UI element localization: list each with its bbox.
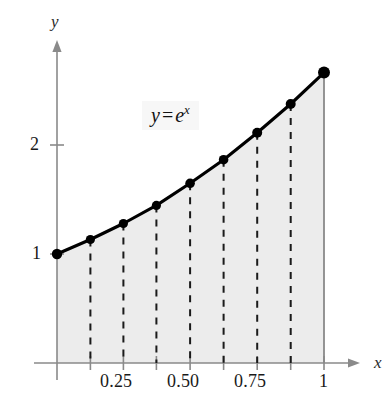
data-point-marker bbox=[185, 179, 195, 189]
x-tick-label-0.50: 0.50 bbox=[167, 371, 199, 392]
data-point-marker bbox=[219, 155, 229, 165]
data-point-marker bbox=[318, 67, 330, 79]
y-tick-label-1: 1 bbox=[32, 243, 41, 264]
equation-exponent: x bbox=[184, 103, 190, 117]
x-tick-label-1: 1 bbox=[319, 371, 328, 392]
x-axis-arrowhead bbox=[348, 358, 360, 367]
y-axis-label: y bbox=[51, 12, 59, 32]
data-point-marker bbox=[252, 128, 262, 138]
x-tick-label-0.75: 0.75 bbox=[234, 371, 266, 392]
curve-equation-label: y=ex bbox=[142, 101, 199, 130]
x-axis-label: x bbox=[374, 353, 382, 373]
data-point-marker bbox=[152, 201, 161, 210]
y-axis-arrowhead bbox=[52, 40, 61, 52]
y-tick-label-2: 2 bbox=[30, 134, 39, 155]
data-point-marker bbox=[52, 249, 62, 259]
equation-lhs: y bbox=[151, 104, 160, 126]
data-point-marker bbox=[86, 235, 95, 244]
x-tick-label-0.25: 0.25 bbox=[100, 371, 132, 392]
figure-container: y x 2 1 0.25 0.50 0.75 1 y=ex bbox=[0, 0, 382, 407]
equation-operator: = bbox=[160, 104, 175, 126]
data-point-marker bbox=[286, 99, 296, 109]
plot-canvas bbox=[0, 0, 382, 407]
data-point-marker bbox=[119, 219, 128, 228]
equation-base: e bbox=[175, 104, 184, 126]
